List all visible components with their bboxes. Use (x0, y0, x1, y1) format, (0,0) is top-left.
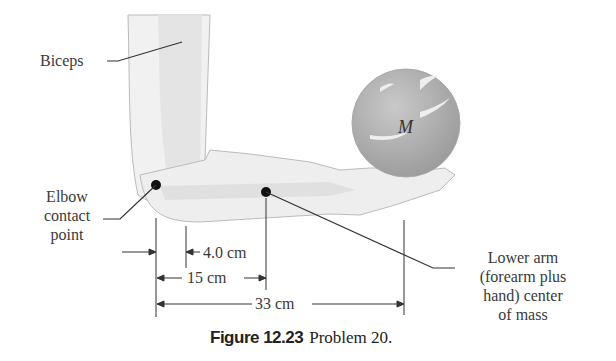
elbow-label-line: point (34, 225, 100, 244)
caption-text: Problem 20. (309, 328, 392, 347)
dimension-15cm: 15 cm (187, 268, 227, 287)
biceps-label: Biceps (40, 51, 84, 70)
figure-caption: Figure 12.23Problem 20. (210, 328, 392, 348)
lower-arm-com-label: Lower arm (forearm plus hand) center of … (460, 248, 586, 324)
elbow-label-line: contact (34, 206, 100, 225)
mass-label: M (397, 117, 414, 137)
lower-arm-label-line: hand) center (460, 286, 586, 305)
elbow-label-line: Elbow (34, 187, 100, 206)
lower-arm-label-line: of mass (460, 305, 586, 324)
lower-arm-label-line: (forearm plus (460, 267, 586, 286)
lower-arm-label-line: Lower arm (460, 248, 586, 267)
elbow-contact-label: Elbow contact point (34, 187, 100, 244)
dimension-33cm: 33 cm (255, 294, 295, 313)
figure-number: Figure 12.23 (210, 328, 303, 347)
dimension-4cm: 4.0 cm (203, 243, 247, 262)
mass-ball: M (352, 69, 460, 177)
